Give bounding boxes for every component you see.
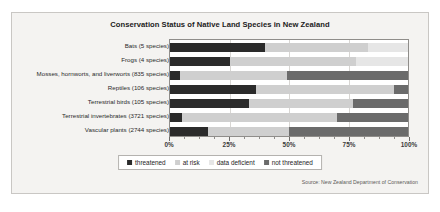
bar-segment [182, 113, 337, 122]
chart-title: Conservation Status of Native Land Speci… [12, 20, 428, 29]
bar-row [170, 113, 408, 122]
bar-segment [230, 57, 356, 66]
x-axis-tick-label: 75% [343, 141, 356, 148]
x-axis-minor-tick [199, 137, 200, 139]
plot-area [169, 39, 409, 137]
x-axis-tick [289, 137, 290, 141]
bar-segment [337, 113, 408, 122]
x-axis-tick [349, 137, 350, 141]
x-axis-minor-tick [214, 137, 215, 139]
bar-segment [368, 43, 408, 52]
legend-swatch-icon [127, 160, 132, 165]
bar-segment [170, 71, 180, 80]
bar-segment [170, 57, 230, 66]
y-axis-category-labels: Bats (5 species)Frogs (4 species)Mosses,… [12, 39, 169, 137]
category-label: Terrestrial invertebrates (3721 species) [62, 109, 169, 123]
legend-label: data deficient [217, 159, 255, 166]
legend-item[interactable]: data deficient [209, 159, 255, 166]
bar-segment [287, 71, 408, 80]
legend-swatch-icon [264, 160, 269, 165]
bar-segment [170, 127, 208, 136]
category-label: Bats (5 species) [125, 39, 169, 53]
category-label: Terrestrial birds (105 species) [88, 95, 169, 109]
legend-swatch-icon [209, 160, 214, 165]
bar-segment [353, 99, 408, 108]
category-label: Frogs (4 species) [121, 53, 169, 67]
bar-row [170, 127, 408, 136]
plot-wrapper: Bats (5 species)Frogs (4 species)Mosses,… [12, 39, 430, 141]
x-axis-minor-tick [259, 137, 260, 139]
bar-row [170, 85, 408, 94]
x-axis-minor-tick [184, 137, 185, 139]
x-axis-minor-tick [364, 137, 365, 139]
x-axis-minor-tick [379, 137, 380, 139]
x-axis-tick-label: 0% [164, 141, 173, 148]
figure-frame: Conservation Status of Native Land Speci… [11, 12, 429, 194]
bar-row [170, 57, 408, 66]
legend-item[interactable]: not threatened [264, 159, 313, 166]
bar-row [170, 99, 408, 108]
bar-segment [289, 127, 408, 136]
legend-label: at risk [183, 159, 200, 166]
bar-segment [170, 99, 249, 108]
bar-row [170, 71, 408, 80]
x-axis-tick-label: 25% [223, 141, 236, 148]
x-axis-tick-label: 50% [283, 141, 296, 148]
x-axis-tick [229, 137, 230, 141]
x-axis-tick [169, 137, 170, 141]
bar-row [170, 43, 408, 52]
bar-segment [208, 127, 289, 136]
bar-segment [170, 113, 182, 122]
category-label: Reptiles (106 species) [108, 81, 169, 95]
x-axis-tick-label: 100% [401, 141, 417, 148]
bar-segment [180, 71, 287, 80]
x-axis-minor-tick [304, 137, 305, 139]
x-axis-minor-tick [334, 137, 335, 139]
bar-segment [249, 99, 354, 108]
bar-segment [170, 43, 265, 52]
bar-segment [394, 85, 408, 94]
legend-label: threatened [135, 159, 166, 166]
chart-legend: threatenedat riskdata deficientnot threa… [118, 155, 322, 170]
source-note: Source: New Zealand Department of Conser… [302, 179, 418, 185]
legend-label: not threatened [272, 159, 313, 166]
x-axis-minor-tick [274, 137, 275, 139]
x-axis-minor-tick [394, 137, 395, 139]
x-axis-minor-tick [244, 137, 245, 139]
category-label: Vascular plants (2744 species) [85, 123, 169, 137]
bar-segment [265, 43, 367, 52]
x-axis-minor-tick [319, 137, 320, 139]
category-label: Mosses, hornworts, and liverworts (835 s… [37, 67, 169, 81]
bar-segment [356, 57, 408, 66]
x-axis-tick [409, 137, 410, 141]
bar-segment [170, 85, 256, 94]
x-axis: 0%25%50%75%100% [169, 137, 409, 151]
bar-segment [256, 85, 394, 94]
legend-item[interactable]: at risk [175, 159, 200, 166]
legend-swatch-icon [175, 160, 180, 165]
legend-item[interactable]: threatened [127, 159, 166, 166]
